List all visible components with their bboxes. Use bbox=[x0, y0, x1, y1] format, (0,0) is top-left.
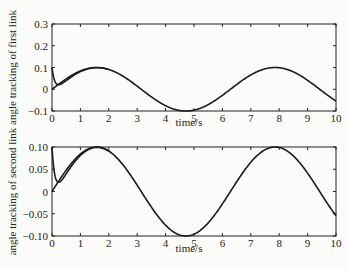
bottom-ylabel: angle tracking of second link bbox=[6, 127, 18, 255]
bottom-xtick-label: 10 bbox=[331, 237, 343, 249]
top-ytick-label: 0.2 bbox=[34, 40, 48, 52]
top-xtick-label: 4 bbox=[163, 112, 169, 124]
top-xtick-label: 6 bbox=[220, 112, 226, 124]
bottom-xtick-label: 4 bbox=[163, 237, 169, 249]
bottom-xtick-label: 2 bbox=[106, 237, 112, 249]
bottom-xtick-label: 6 bbox=[220, 237, 226, 249]
bottom-ytick-label: −0.10 bbox=[23, 230, 49, 242]
top-xtick-label: 1 bbox=[78, 112, 84, 124]
top-xtick-label: 2 bbox=[106, 112, 112, 124]
bottom-xtick-label: 7 bbox=[248, 237, 254, 249]
bottom-ytick-label: 0.05 bbox=[29, 163, 49, 175]
bottom-xtick-label: 8 bbox=[276, 237, 282, 249]
figure: 012345678910−0.100.10.20.3time/sangle tr… bbox=[0, 0, 348, 270]
top-ylabel: angle tracking of first link bbox=[6, 10, 18, 125]
bottom-xtick-label: 1 bbox=[78, 237, 84, 249]
bottom-xtick-label: 9 bbox=[305, 237, 311, 249]
bottom-axes-box bbox=[52, 147, 336, 236]
top-xtick-label: 0 bbox=[49, 112, 55, 124]
top-xtick-label: 10 bbox=[331, 112, 343, 124]
top-ytick-label: 0.1 bbox=[34, 62, 48, 74]
bottom-xtick-label: 3 bbox=[134, 237, 140, 249]
top-xtick-label: 9 bbox=[305, 112, 311, 124]
top-xlabel: time/s bbox=[176, 116, 203, 128]
bottom-xtick-label: 0 bbox=[49, 237, 55, 249]
top-xtick-label: 3 bbox=[134, 112, 140, 124]
top-xtick-label: 7 bbox=[248, 112, 254, 124]
bottom-desired-line bbox=[52, 147, 336, 236]
chart-canvas: 012345678910−0.100.10.20.3time/sangle tr… bbox=[0, 0, 348, 270]
top-ytick-label: −0.1 bbox=[28, 105, 48, 117]
top-desired-line bbox=[52, 68, 336, 112]
bottom-ytick-label: 0.10 bbox=[29, 141, 49, 153]
top-xtick-label: 8 bbox=[276, 112, 282, 124]
bottom-ytick-label: −0.05 bbox=[23, 208, 49, 220]
bottom-xlabel: time/s bbox=[176, 242, 203, 254]
top-ytick-label: 0 bbox=[43, 83, 49, 95]
bottom-ytick-label: 0 bbox=[43, 186, 49, 198]
top-ytick-label: 0.3 bbox=[34, 18, 48, 30]
